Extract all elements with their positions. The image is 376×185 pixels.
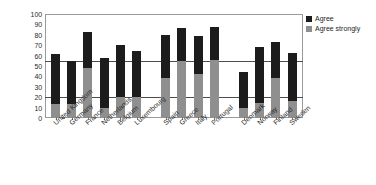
bar-segment-agree[interactable]	[67, 61, 76, 105]
bar-segment-agree[interactable]	[51, 54, 60, 105]
bar-segment-agree[interactable]	[83, 32, 92, 68]
bar-column[interactable]	[239, 72, 248, 118]
chart-legend: Agree Agree strongly	[306, 15, 374, 35]
y-axis-tick-label: 60	[20, 53, 42, 60]
bar-segment-agree[interactable]	[100, 58, 109, 108]
legend-label-agree: Agree	[315, 15, 334, 23]
legend-item-agree-strongly: Agree strongly	[306, 25, 374, 33]
y-axis-tick-label: 20	[20, 94, 42, 101]
bar-column[interactable]	[210, 26, 219, 118]
bar-segment-agree[interactable]	[132, 51, 141, 97]
bar-segment-agree[interactable]	[194, 36, 203, 74]
bar-segment-agree-strongly[interactable]	[210, 60, 219, 118]
bar-segment-agree[interactable]	[116, 45, 125, 97]
y-axis-tick-label: 100	[20, 11, 42, 18]
y-axis-tick-label: 10	[20, 105, 42, 112]
bar-segment-agree[interactable]	[271, 42, 280, 78]
bar-column[interactable]	[177, 28, 186, 118]
legend-label-agree-strongly: Agree strongly	[315, 25, 360, 33]
bar-segment-agree[interactable]	[210, 27, 219, 60]
y-axis-tick-label: 70	[20, 42, 42, 49]
bar-column[interactable]	[161, 35, 170, 118]
y-axis-tick-label: 80	[20, 32, 42, 39]
stacked-bar-chart: 1009080706050403020100 United KingdomGer…	[0, 0, 376, 185]
bar-segment-agree[interactable]	[288, 53, 297, 102]
y-axis: 1009080706050403020100	[20, 9, 42, 123]
legend-swatch-agree-strongly	[306, 26, 312, 32]
bar-segment-agree[interactable]	[161, 35, 170, 79]
bar-segment-agree-strongly[interactable]	[177, 61, 186, 118]
y-axis-tick-label: 30	[20, 84, 42, 91]
bar-segment-agree[interactable]	[239, 72, 248, 107]
bar-column[interactable]	[51, 54, 60, 118]
x-axis-labels: United KingdomGermanyFranceNetherlandsBe…	[0, 118, 376, 185]
legend-swatch-agree	[306, 16, 312, 22]
legend-item-agree: Agree	[306, 15, 374, 23]
y-axis-tick-label: 40	[20, 73, 42, 80]
bar-segment-agree[interactable]	[255, 47, 264, 103]
y-axis-tick-label: 50	[20, 63, 42, 70]
bar-segment-agree[interactable]	[177, 28, 186, 61]
y-axis-tick-label: 90	[20, 21, 42, 28]
